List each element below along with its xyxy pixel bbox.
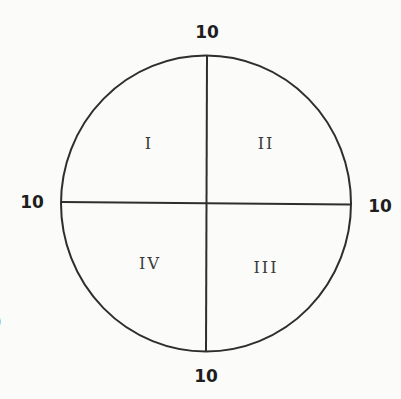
edge-label-bottom: 10 <box>194 368 218 385</box>
horizontal-axis-line <box>62 202 350 205</box>
quadrant-label-ii: II <box>258 136 275 152</box>
quadrant-circle-figure <box>0 0 401 399</box>
diagram-canvas: 10 10 10 10 I II III IV ) <box>0 0 401 399</box>
quadrant-label-iii: III <box>254 260 279 276</box>
edge-label-left: 10 <box>20 194 44 211</box>
edge-label-right: 10 <box>368 198 392 215</box>
edge-label-top: 10 <box>195 24 219 41</box>
quadrant-label-i: I <box>145 136 153 152</box>
cropped-glyph-fragment: ) <box>0 310 2 332</box>
quadrant-label-iv: IV <box>139 256 161 272</box>
